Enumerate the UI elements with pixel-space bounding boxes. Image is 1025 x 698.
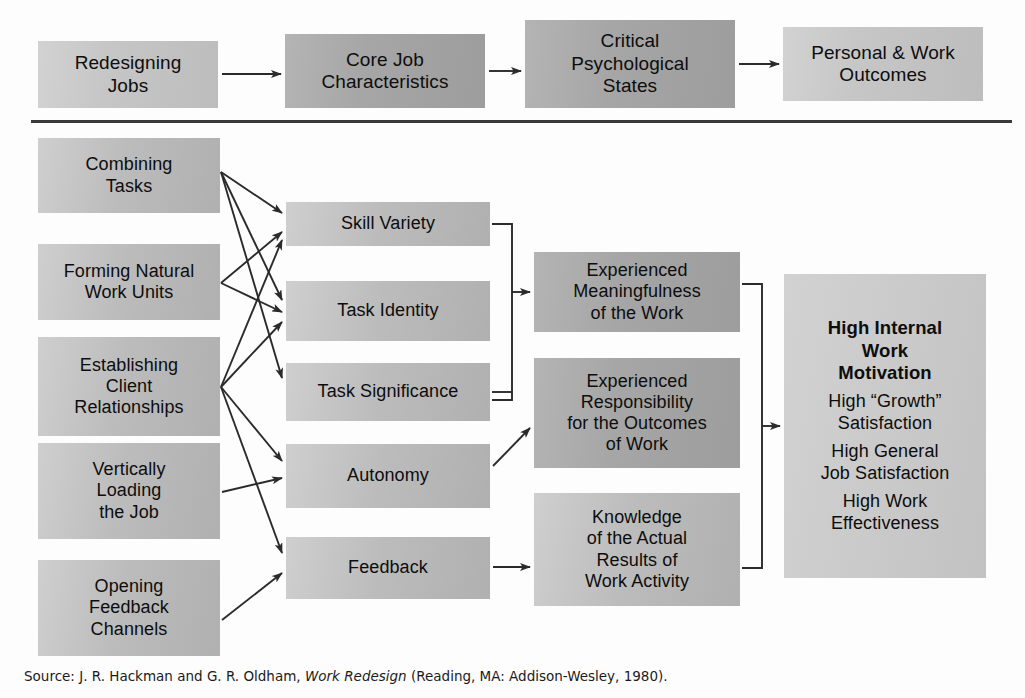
outcome-line-list: High Internal Work Motivation High “Grow… <box>784 317 986 534</box>
arrow-forming-to-skill-variety <box>221 232 282 283</box>
arrow-vertical-loading-to-autonomy <box>222 478 282 492</box>
bracket-core-to-meaningfulness <box>492 224 512 400</box>
arrow-client-to-feedback <box>221 387 282 553</box>
arrow-client-to-skill-variety <box>221 240 282 387</box>
diagram-canvas: Redesigning Jobs Core Job Characteristic… <box>0 0 1025 698</box>
outcome-line-work-effectiveness: High Work Effectiveness <box>831 491 939 534</box>
box-personal-work-outcomes: High Internal Work Motivation High “Grow… <box>784 274 986 578</box>
box-combining-tasks: Combining Tasks <box>38 138 220 213</box>
source-prefix: Source: J. R. Hackman and G. R. Oldham, <box>24 668 305 684</box>
box-forming-natural-work-units: Forming Natural Work Units <box>38 244 220 320</box>
box-task-significance: Task Significance <box>286 363 490 421</box>
box-autonomy: Autonomy <box>286 444 490 508</box>
header-box-redesigning-jobs: Redesigning Jobs <box>38 41 218 108</box>
arrow-autonomy-to-responsibility <box>493 428 530 466</box>
box-opening-feedback-channels: Opening Feedback Channels <box>38 560 220 656</box>
header-box-core-job-characteristics: Core Job Characteristics <box>285 34 485 108</box>
bracket-states-to-outcomes <box>742 284 762 568</box>
header-box-critical-psychological-states: Critical Psychological States <box>525 20 735 108</box>
box-feedback: Feedback <box>286 537 490 599</box>
box-experienced-meaningfulness: Experienced Meaningfulness of the Work <box>534 252 740 332</box>
box-experienced-responsibility: Experienced Responsibility for the Outco… <box>534 358 740 468</box>
source-caption: Source: J. R. Hackman and G. R. Oldham, … <box>24 668 668 684</box>
box-knowledge-of-results: Knowledge of the Actual Results of Work … <box>534 493 740 606</box>
header-box-personal-work-outcomes: Personal & Work Outcomes <box>783 27 983 101</box>
arrow-opening-feedback-to-feedback <box>222 573 282 620</box>
box-task-identity: Task Identity <box>286 281 490 341</box>
outcome-line-growth-satisfaction: High “Growth” Satisfaction <box>828 391 941 434</box>
box-establishing-client-relationships: Establishing Client Relationships <box>38 337 220 436</box>
source-suffix: (Reading, MA: Addison-Wesley, 1980). <box>407 668 668 684</box>
source-italic-title: Work Redesign <box>305 668 407 684</box>
arrow-combining-to-skill-variety <box>221 172 282 213</box>
arrow-combining-to-task-significance <box>221 172 282 378</box>
outcome-line-general-job-satisfaction: High General Job Satisfaction <box>821 441 950 484</box>
arrow-client-to-autonomy <box>221 387 282 461</box>
arrow-combining-to-task-identity <box>221 172 282 300</box>
box-skill-variety: Skill Variety <box>286 202 490 246</box>
arrow-client-to-task-identity <box>221 322 282 387</box>
box-vertically-loading-the-job: Vertically Loading the Job <box>38 443 220 539</box>
section-divider <box>31 120 1012 123</box>
arrow-forming-to-task-identity <box>221 283 282 312</box>
outcome-line-motivation: High Internal Work Motivation <box>828 317 942 384</box>
